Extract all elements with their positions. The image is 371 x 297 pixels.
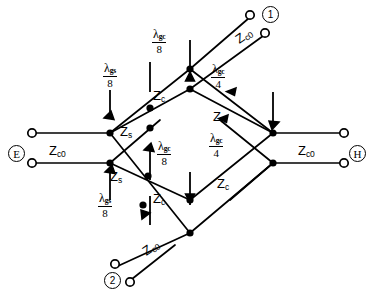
zs-upper-base: Z <box>120 124 128 139</box>
port-label-2[interactable]: 2 <box>104 272 121 289</box>
node-left-bot <box>106 159 113 166</box>
terminal-1-b <box>261 29 269 37</box>
terminal-E-top <box>28 129 36 137</box>
dimension-label-lam-gs-8-upper: λgs 8 <box>103 62 117 90</box>
node-left-top <box>106 129 113 136</box>
terminal-1-a <box>246 11 254 19</box>
arrow-top-apex <box>186 72 195 81</box>
transmission-lines <box>36 18 340 279</box>
lam-den-0: 8 <box>103 77 117 90</box>
lam-sub-4: gc <box>216 136 222 145</box>
lam-den-1: 8 <box>152 43 166 56</box>
zc-ul-base: Z <box>153 88 161 103</box>
zc0-right-sub: c0 <box>306 149 315 159</box>
terminal-H-bot <box>340 159 348 167</box>
port-label-1[interactable]: 1 <box>262 6 279 23</box>
zc-ll-base: Z <box>153 191 161 206</box>
arm-inner-lower-right <box>190 133 273 200</box>
zc0-right-base: Z <box>298 143 306 158</box>
node-ll-mid <box>144 172 151 179</box>
impedance-label-zs-lower: Zs <box>110 170 122 184</box>
terminal-2-a <box>111 260 119 268</box>
node-right-bot <box>269 159 276 166</box>
arm-rightbot-lower <box>230 163 273 200</box>
zc-ll-sub: c <box>161 197 165 207</box>
impedance-label-zc-upper-left: Zc <box>153 89 165 103</box>
impedance-label-zc-lower-right: Zc <box>217 177 229 191</box>
terminal-E-bot <box>28 159 36 167</box>
zc-ur-sub: c <box>221 115 225 125</box>
zs-lower-sub: s <box>118 175 122 185</box>
port-2-text: 2 <box>110 275 116 286</box>
port-label-E[interactable]: E <box>8 145 25 162</box>
lam-den-2: 4 <box>211 78 225 91</box>
arm-port1-b <box>190 36 263 89</box>
node-ul-low <box>146 124 153 131</box>
dimension-label-lam-gs-8-lower: λgs 8 <box>98 192 112 220</box>
dimension-label-lam-gc-4-lower: λgc 4 <box>209 132 223 160</box>
zc0-left-sub: c0 <box>57 149 66 159</box>
node-bot-apex <box>186 229 193 236</box>
terminal-H-top <box>340 129 348 137</box>
port-H-text: H <box>354 148 362 160</box>
arrow-upper-left <box>104 111 114 120</box>
impedance-label-zc-upper-right: Zc <box>213 110 225 124</box>
lam-den-3: 8 <box>157 155 171 168</box>
zc0-left-base: Z <box>49 143 57 158</box>
impedance-label-zs-upper: Zs <box>120 125 132 139</box>
arrow-lower-right <box>141 210 150 219</box>
lam-den-4: 4 <box>209 147 223 160</box>
dimension-label-lam-gc-8-mid: λgc 8 <box>157 140 171 168</box>
dimension-label-lam-gc-8-top: λgc 8 <box>152 28 166 56</box>
terminal-2-b <box>126 278 134 286</box>
port-E-text: E <box>13 148 20 160</box>
arrow-mid-left <box>144 143 154 152</box>
arrow-gc4-upper <box>227 88 237 96</box>
lam-sub-3: gc <box>164 144 170 153</box>
arm-outer-upper-right <box>190 69 273 133</box>
waveguide-network-figure: E H 1 2 Zc0 Zc0 Zc0 Zc0 Zs Zs Zc Zc Zc Z… <box>0 0 371 297</box>
port-label-H[interactable]: H <box>349 145 366 162</box>
lam-sub-1: gc <box>159 32 165 41</box>
zc-lr-base: Z <box>217 176 225 191</box>
lam-sub-5: gs <box>105 196 111 205</box>
lam-sub-0: gs <box>110 66 116 75</box>
impedance-label-zc0-right: Zc0 <box>298 144 315 158</box>
arm-inner-upper-right <box>190 89 273 133</box>
node-right-top <box>269 129 276 136</box>
zc-ul-sub: c <box>161 94 165 104</box>
node-ll-low <box>139 201 146 208</box>
dimension-label-lam-gc-4-upper: λgc 4 <box>211 63 225 91</box>
lam-sub-2: gc <box>218 67 224 76</box>
zs-upper-sub: s <box>128 130 132 140</box>
zc-lr-sub: c <box>225 182 229 192</box>
node-ul-mid <box>146 104 153 111</box>
zc-ur-base: Z <box>213 109 221 124</box>
port-1-text: 1 <box>268 9 274 20</box>
zs-lower-base: Z <box>110 169 118 184</box>
lam-den-5: 8 <box>98 207 112 220</box>
impedance-label-zc0-left: Zc0 <box>49 144 66 158</box>
node-top-apex <box>186 65 193 72</box>
node-top-inner <box>186 85 193 92</box>
impedance-label-zc-lower-left: Zc <box>153 192 165 206</box>
node-bot-inner <box>186 196 193 203</box>
arrow-right <box>269 121 279 130</box>
